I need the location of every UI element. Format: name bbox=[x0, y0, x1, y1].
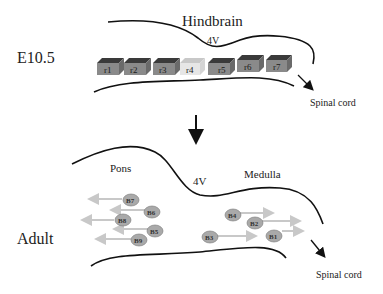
neuron-B4: B4 bbox=[225, 209, 241, 221]
neuron-B9: B9 bbox=[131, 234, 147, 246]
rhombomere-r3: r3 bbox=[153, 58, 180, 75]
rhombomere-r2: r2 bbox=[124, 58, 151, 75]
neuron-B7: B7 bbox=[123, 194, 139, 206]
medulla-label: Medulla bbox=[244, 169, 281, 180]
stage-label-adult: Adult bbox=[17, 231, 53, 247]
neuron-B5: B5 bbox=[147, 225, 163, 237]
hindbrain-ventral-outline bbox=[94, 78, 294, 92]
svg-text:B2: B2 bbox=[250, 220, 259, 228]
svg-text:B4: B4 bbox=[228, 212, 237, 220]
svg-text:r1: r1 bbox=[104, 65, 112, 75]
pons-label: Pons bbox=[110, 163, 131, 174]
ventricle-label-top: 4V bbox=[207, 36, 219, 46]
svg-text:B6: B6 bbox=[147, 209, 156, 217]
spinal-cord-label-bottom: Spinal cord bbox=[316, 270, 362, 280]
svg-text:r5: r5 bbox=[218, 65, 226, 75]
adult-ventral-outline bbox=[91, 248, 286, 267]
neuron-B8: B8 bbox=[115, 214, 131, 226]
rhombomere-r6: r6 bbox=[237, 55, 264, 72]
spinal-cord-label-top: Spinal cord bbox=[310, 98, 356, 108]
rhombomere-row: r1 r2 r3 r4 r5 bbox=[97, 55, 292, 75]
svg-text:B8: B8 bbox=[118, 217, 127, 225]
svg-text:r6: r6 bbox=[244, 62, 252, 72]
svg-text:B9: B9 bbox=[134, 237, 143, 245]
svg-text:B1: B1 bbox=[269, 233, 278, 241]
svg-text:r4: r4 bbox=[186, 65, 194, 75]
neuron-B3: B3 bbox=[202, 231, 218, 243]
rhombomere-r4: r4 bbox=[180, 58, 205, 75]
svg-text:r7: r7 bbox=[273, 62, 281, 72]
svg-text:B5: B5 bbox=[150, 228, 159, 236]
neuron-B2: B2 bbox=[247, 217, 263, 229]
svg-text:B3: B3 bbox=[205, 234, 214, 242]
ventricle-label-bottom: 4V bbox=[193, 176, 206, 187]
spinal-cord-arrow-top bbox=[298, 75, 312, 89]
spinal-cord-arrow-bottom bbox=[311, 240, 324, 256]
stage-label-e10-5: E10.5 bbox=[17, 50, 55, 66]
rhombomere-r1: r1 bbox=[97, 58, 124, 75]
svg-text:B7: B7 bbox=[126, 197, 135, 205]
neuron-B6: B6 bbox=[144, 206, 160, 218]
hindbrain-title: Hindbrain bbox=[182, 14, 243, 29]
rhombomere-r7: r7 bbox=[266, 55, 292, 72]
svg-text:r2: r2 bbox=[130, 65, 138, 75]
neuron-B1: B1 bbox=[266, 230, 282, 242]
diagram-canvas: r1 r2 r3 r4 r5 bbox=[0, 0, 383, 294]
rhombomere-r5: r5 bbox=[208, 58, 235, 75]
svg-text:r3: r3 bbox=[159, 65, 167, 75]
